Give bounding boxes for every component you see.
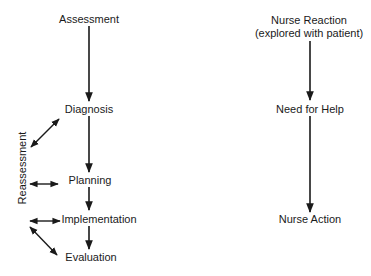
node-need-for-help: Need for Help xyxy=(276,103,344,115)
node-planning: Planning xyxy=(69,174,112,186)
node-assessment: Assessment xyxy=(59,13,119,25)
node-diagnosis: Diagnosis xyxy=(65,103,113,115)
node-evaluation: Evaluation xyxy=(65,251,116,263)
node-nurse-action: Nurse Action xyxy=(279,213,341,225)
node-implementation: Implementation xyxy=(61,213,136,225)
node-reassessment: Reassessment xyxy=(16,132,28,205)
node-nurse-reaction-note: (explored with patient) xyxy=(255,27,363,39)
arrow-reassessment-evaluation xyxy=(30,227,57,255)
node-nurse-reaction: Nurse Reaction xyxy=(271,14,347,26)
arrow-reassessment-diagnosis xyxy=(31,119,59,147)
arrows-layer xyxy=(0,0,371,276)
